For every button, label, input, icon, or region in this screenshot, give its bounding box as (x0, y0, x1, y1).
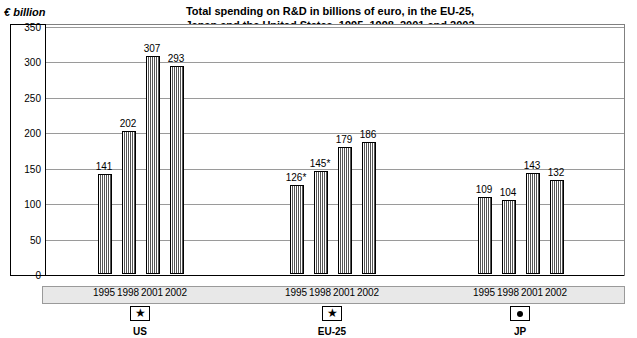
bar-value-label: 145* (300, 158, 340, 169)
group-label: JP (480, 326, 560, 337)
y-axis-tick-label: 100 (24, 199, 41, 210)
bar-value-label: 186 (348, 129, 388, 140)
star-flag-icon: ★ (130, 306, 150, 321)
x-axis-tick-label: 2002 (348, 287, 388, 298)
y-axis-tick-label: 0 (35, 270, 41, 281)
plot-area (42, 24, 625, 276)
chart-title-line-1: Total spending on R&D in billions of eur… (120, 4, 540, 18)
bar (314, 171, 328, 274)
axis-baseline (43, 275, 624, 276)
bar (290, 185, 304, 274)
bar-value-label: 104 (488, 187, 528, 198)
bar (146, 56, 160, 274)
flag-star: ★ (323, 306, 341, 321)
bar (338, 147, 352, 274)
bar-value-label: 132 (536, 167, 576, 178)
bar (170, 66, 184, 274)
bar (362, 142, 376, 274)
bar (550, 180, 564, 274)
star-flag-icon: ★ (322, 306, 342, 321)
flag-dot (517, 311, 523, 317)
bar (502, 200, 516, 274)
group-label: US (100, 326, 180, 337)
flag-star: ★ (131, 306, 149, 321)
x-axis-tick-label: 2002 (156, 287, 196, 298)
y-axis-tick-label: 50 (30, 234, 41, 245)
y-axis-unit-label: € billion (4, 6, 46, 18)
y-axis-tick-label: 150 (24, 163, 41, 174)
bar-value-label: 141 (84, 161, 124, 172)
y-axis-tick-label: 300 (24, 57, 41, 68)
gridline (43, 62, 624, 63)
y-axis-tick-label: 350 (24, 22, 41, 33)
y-axis-tick-label: 200 (24, 128, 41, 139)
x-axis-tick-label: 2002 (536, 287, 576, 298)
bar-value-label: 126* (276, 172, 316, 183)
gridline (43, 27, 624, 28)
bar-value-label: 202 (108, 118, 148, 129)
gridline (43, 98, 624, 99)
y-axis: 050100150200250300350 (10, 24, 46, 276)
bar (122, 131, 136, 274)
bar (98, 174, 112, 274)
dot-flag-icon (510, 306, 530, 321)
group-label: EU-25 (292, 326, 372, 337)
bar (478, 197, 492, 274)
bar (526, 173, 540, 274)
y-axis-tick-label: 250 (24, 92, 41, 103)
chart-root: € billion Total spending on R&D in billi… (0, 0, 637, 338)
bar-value-label: 293 (156, 53, 196, 64)
